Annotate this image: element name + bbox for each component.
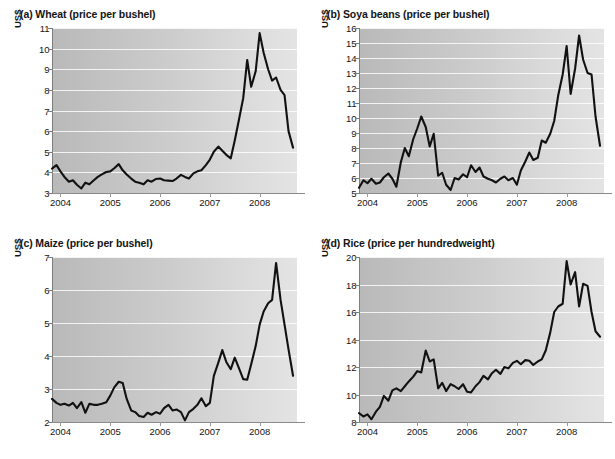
series-line: [52, 33, 293, 188]
y-axis-label-soya: US$: [319, 10, 330, 28]
x-tick-label: 2004: [50, 197, 71, 208]
panel-title-soya: (b) Soya beans (price per bushel): [327, 8, 489, 20]
x-tick-mark: [367, 193, 368, 197]
x-axis-line-wheat: [52, 193, 305, 194]
series-maize: [52, 257, 297, 422]
y-axis-label-maize: US$: [12, 239, 23, 257]
x-tick-mark: [60, 422, 61, 426]
x-tick-mark: [517, 422, 518, 426]
x-tick-label: 2005: [100, 197, 121, 208]
series-wheat: [52, 28, 297, 193]
y-axis-label-rice: US$: [319, 239, 330, 257]
x-tick-label: 2006: [149, 197, 170, 208]
panel-title-wheat: (a) Wheat (price per bushel): [20, 8, 155, 20]
x-tick-label: 2008: [556, 426, 577, 437]
x-tick-mark: [417, 422, 418, 426]
x-tick-mark: [210, 193, 211, 197]
plot-area-rice: 810121416182020042005200620072008: [359, 257, 604, 422]
x-tick-mark: [110, 422, 111, 426]
x-tick-label: 2008: [556, 197, 577, 208]
plot-area-soya: 567891011121314151620042005200620072008: [359, 28, 604, 193]
x-tick-label: 2004: [357, 426, 378, 437]
y-axis-label-wheat: US$: [12, 10, 23, 28]
panel-wheat: (a) Wheat (price per bushel) US$ 3456789…: [0, 0, 307, 229]
x-tick-label: 2008: [249, 197, 270, 208]
panel-title-rice: (d) Rice (price per hundredweight): [327, 237, 495, 249]
panel-maize: (c) Maize (price per bushel) US$ 2345672…: [0, 229, 307, 458]
x-tick-mark: [260, 193, 261, 197]
x-tick-label: 2006: [149, 426, 170, 437]
x-tick-label: 2007: [506, 197, 527, 208]
figure-grid: (a) Wheat (price per bushel) US$ 3456789…: [0, 0, 615, 459]
x-tick-label: 2007: [506, 426, 527, 437]
x-tick-mark: [60, 193, 61, 197]
x-tick-label: 2007: [199, 426, 220, 437]
x-tick-label: 2005: [407, 197, 428, 208]
x-axis-line-maize: [52, 422, 305, 423]
y-tick-mark: [355, 422, 359, 423]
x-tick-label: 2004: [50, 426, 71, 437]
panel-rice: (d) Rice (price per hundredweight) US$ 8…: [307, 229, 614, 458]
x-tick-mark: [567, 422, 568, 426]
x-tick-mark: [110, 193, 111, 197]
x-tick-mark: [467, 193, 468, 197]
x-axis-line-rice: [359, 422, 612, 423]
series-line: [359, 36, 600, 191]
x-tick-label: 2005: [100, 426, 121, 437]
plot-area-maize: 23456720042005200620072008: [52, 257, 297, 422]
series-rice: [359, 257, 604, 422]
x-tick-mark: [160, 422, 161, 426]
series-line: [359, 261, 600, 419]
y-tick-mark: [355, 193, 359, 194]
panel-title-maize: (c) Maize (price per bushel): [20, 237, 153, 249]
series-line: [52, 263, 293, 420]
x-tick-label: 2005: [407, 426, 428, 437]
x-tick-mark: [417, 193, 418, 197]
x-tick-mark: [467, 422, 468, 426]
x-tick-mark: [160, 193, 161, 197]
panel-soya: (b) Soya beans (price per bushel) US$ 56…: [307, 0, 614, 229]
plot-area-wheat: 3456789101120042005200620072008: [52, 28, 297, 193]
x-tick-mark: [517, 193, 518, 197]
x-tick-label: 2004: [357, 197, 378, 208]
x-tick-mark: [367, 422, 368, 426]
x-tick-mark: [210, 422, 211, 426]
x-tick-label: 2006: [456, 426, 477, 437]
series-soya: [359, 28, 604, 193]
x-tick-label: 2008: [249, 426, 270, 437]
x-tick-label: 2006: [456, 197, 477, 208]
y-tick-mark: [48, 422, 52, 423]
y-tick-mark: [48, 193, 52, 194]
x-tick-mark: [567, 193, 568, 197]
x-axis-line-soya: [359, 193, 612, 194]
x-tick-mark: [260, 422, 261, 426]
x-tick-label: 2007: [199, 197, 220, 208]
